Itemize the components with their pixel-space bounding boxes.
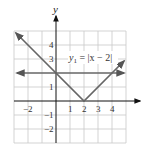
x-tick-label: 2 [82, 104, 87, 114]
y-tick-label: 4 [49, 40, 54, 50]
y-tick-label: 1 [49, 82, 54, 92]
y-tick-label: −1 [44, 110, 54, 120]
y-tick-label: −2 [44, 124, 54, 134]
x-tick-label: 3 [96, 104, 101, 114]
x-tick-label: −2 [23, 104, 33, 114]
x-tick-label: 4 [110, 104, 115, 114]
x-tick-label: 1 [68, 104, 73, 114]
y-tick-label: 3 [49, 54, 54, 64]
graph: y1 = |x − 2| y −2 1 2 3 4 4 3 1 −1 −2 [0, 0, 145, 157]
y-axis-label: y [52, 3, 58, 15]
